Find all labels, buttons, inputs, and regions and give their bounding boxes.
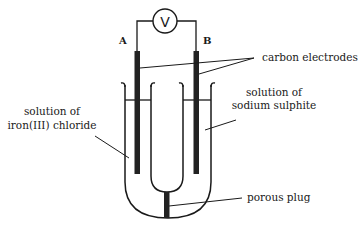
- leader-lines: [95, 58, 254, 206]
- label-carbon-electrodes: carbon electrodes: [262, 51, 358, 63]
- electrode-label-a: A: [118, 35, 127, 46]
- electrode-b: [194, 51, 200, 174]
- electrode-a: [135, 51, 141, 174]
- u-tube-inner-wall: [151, 85, 183, 192]
- voltmeter-symbol: V: [160, 14, 170, 30]
- voltmeter: V: [153, 9, 177, 33]
- label-porous-plug: porous plug: [247, 191, 311, 203]
- electrode-label-b: B: [203, 35, 211, 46]
- label-left-solution-line1: solution of: [24, 105, 81, 117]
- label-left-solution-line2: iron(III) chloride: [7, 119, 96, 131]
- porous-plug: [164, 192, 170, 218]
- label-right-solution-line2: sodium sulphite: [232, 99, 317, 111]
- label-right-solution-line1: solution of: [246, 86, 303, 98]
- electrochemical-cell-diagram: V A B carbon electrodes solution of sodi…: [0, 0, 362, 225]
